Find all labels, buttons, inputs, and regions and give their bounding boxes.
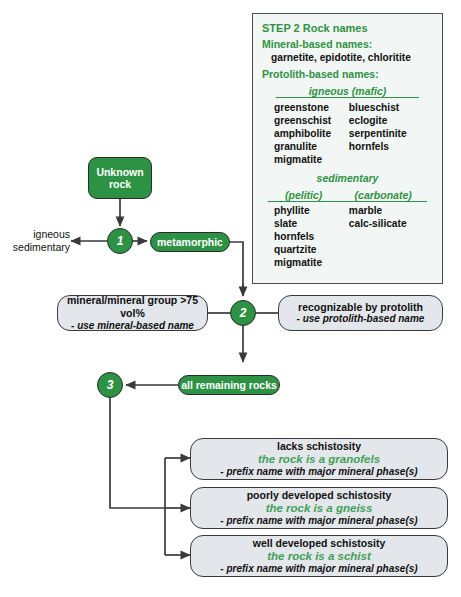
rock-name: granulite — [274, 140, 349, 153]
igneous-column-left: greenstone greenschist amphibolite granu… — [274, 101, 349, 166]
rock-name: calc-silicate — [349, 217, 433, 230]
gneiss-line1: poorly developed schistosity — [247, 489, 392, 502]
rock-name: marble — [349, 204, 433, 217]
schist-line2: the rock is a schist — [267, 549, 371, 563]
sedimentary-pelitic-label: (pelitic) — [268, 189, 339, 202]
legend-header: STEP 2 Rock names — [262, 22, 433, 34]
sedimentary-carbonate-label: (carbonate) — [339, 189, 427, 202]
label-igneous: igneous — [0, 228, 70, 241]
step2-option-mineral-based[interactable]: mineral/mineral group >75 vol% - use min… — [57, 295, 208, 331]
schist-line3: - prefix name with major mineral phase(s… — [220, 563, 417, 575]
mineral-based-names: garnetite, epidotite, chloritite — [271, 52, 433, 63]
node-metamorphic[interactable]: metamorphic — [150, 232, 230, 252]
protolith-based-heading: Protolith-based names: — [262, 68, 433, 80]
label-sedimentary: sedimentary — [0, 241, 70, 254]
rock-name: migmatite — [274, 153, 349, 166]
rock-name: slate — [274, 217, 349, 230]
igneous-column-right: blueschist eclogite serpentinite hornfel… — [349, 101, 433, 166]
sedimentary-column-right: marble calc-silicate — [349, 204, 433, 269]
rock-name: quartzite — [274, 243, 349, 256]
granofels-line3: - prefix name with major mineral phase(s… — [220, 466, 417, 478]
rock-name: hornfels — [274, 230, 349, 243]
step3-option-gneiss[interactable]: poorly developed schistosity the rock is… — [190, 487, 448, 529]
rock-name: amphibolite — [274, 127, 349, 140]
rock-name: migmatite — [274, 256, 349, 269]
step2-right-line2: - use protolith-based name — [297, 313, 425, 325]
step-3-badge[interactable]: 3 — [97, 372, 123, 398]
rock-name: phyllite — [274, 204, 349, 217]
rock-name: greenschist — [274, 114, 349, 127]
granofels-line1: lacks schistosity — [277, 440, 361, 453]
unknown-rock-line2: rock — [109, 178, 131, 190]
node-unknown-rock[interactable]: Unknown rock — [88, 157, 152, 199]
step2-right-line1: recognizable by protolith — [298, 301, 423, 314]
sedimentary-subcategories: (pelitic) (carbonate) — [268, 189, 427, 202]
diagram-canvas: STEP 2 Rock names Mineral-based names: g… — [0, 0, 461, 597]
rock-name: hornfels — [349, 140, 433, 153]
step3-option-schist[interactable]: well developed schistosity the rock is a… — [190, 535, 448, 577]
rock-name: eclogite — [349, 114, 433, 127]
step2-left-line1: mineral/mineral group >75 vol% — [58, 294, 207, 320]
sedimentary-category-label: sedimentary — [262, 172, 433, 184]
legend-panel: STEP 2 Rock names Mineral-based names: g… — [252, 13, 443, 284]
sedimentary-name-columns: phyllite slate hornfels quartzite migmat… — [274, 204, 433, 269]
gneiss-line3: - prefix name with major mineral phase(s… — [220, 515, 417, 527]
gneiss-line2: the rock is a gneiss — [266, 501, 373, 515]
rock-name: serpentinite — [349, 127, 433, 140]
rock-name: blueschist — [349, 101, 433, 114]
schist-line1: well developed schistosity — [253, 537, 385, 550]
rock-name: greenstone — [274, 101, 349, 114]
step2-option-protolith-based[interactable]: recognizable by protolith - use protolit… — [278, 295, 443, 331]
step3-option-granofels[interactable]: lacks schistosity the rock is a granofel… — [190, 438, 448, 480]
igneous-category-label: igneous (mafic) — [276, 85, 419, 98]
sedimentary-column-left: phyllite slate hornfels quartzite migmat… — [274, 204, 349, 269]
unknown-rock-line1: Unknown — [96, 166, 143, 178]
mineral-based-heading: Mineral-based names: — [262, 38, 433, 50]
granofels-line2: the rock is a granofels — [258, 452, 380, 466]
step2-left-line2: - use mineral-based name — [71, 320, 194, 332]
step-1-badge[interactable]: 1 — [107, 228, 133, 254]
node-all-remaining-rocks[interactable]: all remaining rocks — [178, 375, 280, 395]
label-igneous-sedimentary: igneous sedimentary — [0, 228, 70, 254]
step-2-badge[interactable]: 2 — [230, 300, 256, 326]
igneous-name-columns: greenstone greenschist amphibolite granu… — [274, 101, 433, 166]
